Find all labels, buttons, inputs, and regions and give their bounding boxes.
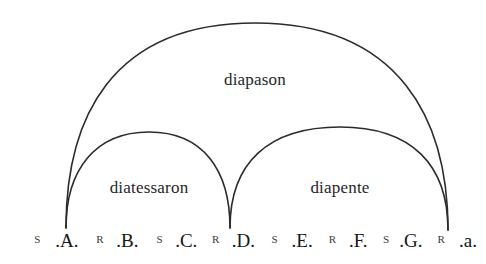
scale-interval-4: S — [156, 234, 162, 245]
scale-note-5: .C. — [175, 231, 197, 250]
arc-layer — [0, 0, 486, 264]
scale-note-13: .G. — [399, 231, 422, 250]
scale-interval-2: R — [96, 234, 103, 245]
scale-interval-14: R — [438, 234, 445, 245]
arc-label-diatessaron: diatessaron — [110, 178, 189, 198]
scale-interval-8: S — [271, 234, 277, 245]
scale-interval-0: S — [34, 234, 40, 245]
scale-note-3: .B. — [116, 231, 138, 250]
music-interval-diagram: diapason diatessaron diapente S.A.R.B.S.… — [0, 0, 486, 264]
scale-note-1: .A. — [55, 231, 78, 250]
scale-interval-12: S — [383, 234, 389, 245]
arc-label-diapason: diapason — [224, 70, 286, 90]
scale-row: S.A.R.B.S.C.R.D.S.E.R.F.S.G.R.a. — [0, 231, 486, 261]
arc-label-diapente: diapente — [310, 178, 369, 198]
scale-interval-10: R — [329, 234, 336, 245]
arc-diapason — [66, 23, 448, 230]
scale-note-11: .F. — [349, 231, 368, 250]
scale-interval-6: R — [212, 234, 219, 245]
scale-note-9: .E. — [292, 231, 313, 250]
scale-note-15: .a. — [459, 231, 477, 250]
scale-note-7: .D. — [232, 231, 255, 250]
